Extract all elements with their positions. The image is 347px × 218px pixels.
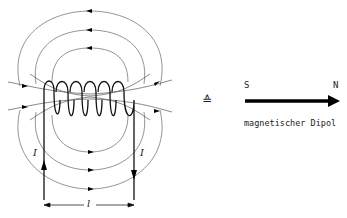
field-arrows: [86, 9, 94, 191]
dipole-arrow: [245, 95, 340, 107]
dipole-caption: magnetischer Dipol: [244, 118, 336, 128]
north-pole-label: N: [333, 80, 338, 90]
solenoid-diagram: [0, 0, 347, 218]
current-label-right: I: [140, 147, 144, 158]
south-pole-label: S: [244, 80, 249, 90]
current-label-left: I: [33, 147, 37, 158]
equivalence-symbol: ≙: [202, 93, 212, 107]
length-label: l: [87, 198, 90, 209]
